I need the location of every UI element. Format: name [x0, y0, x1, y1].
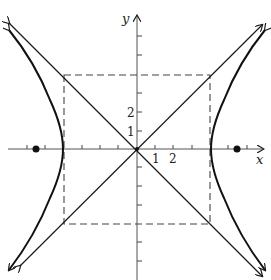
x-tick-label-1: 1 [152, 152, 160, 166]
hyperbola-diagram: 1 2 x 1 2 y [0, 0, 271, 280]
y-tick-label-1: 1 [127, 125, 135, 139]
y-axis-label: y [121, 11, 130, 26]
y-tick-label-2: 2 [127, 106, 135, 120]
focus-left [33, 146, 40, 153]
x-axis-label: x [256, 152, 264, 167]
asymptote-positive-slope [20, 25, 262, 266]
origin-point [135, 147, 139, 151]
focus-right [234, 146, 241, 153]
x-tick-label-2: 2 [169, 152, 177, 166]
